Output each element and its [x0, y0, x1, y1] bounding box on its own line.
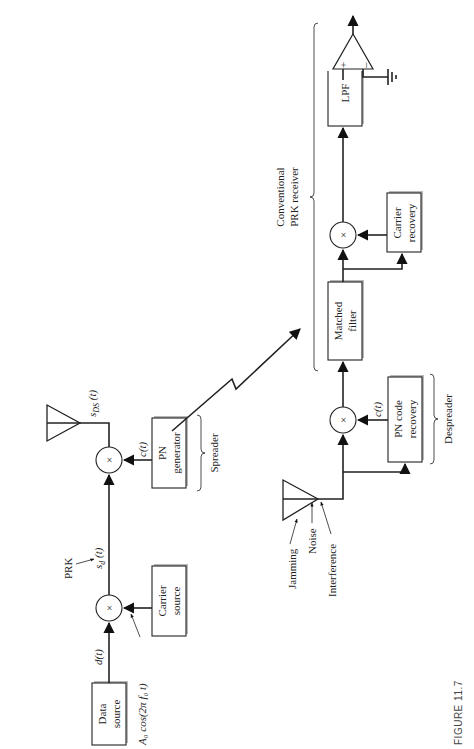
jamming-pointer	[290, 519, 297, 544]
rx-antenna-icon	[283, 480, 318, 520]
carrier-recovery-label-2: recovery	[405, 203, 417, 242]
carrier-signal-label: A₀ cos(2π f₀ t)	[136, 683, 149, 746]
demod-mixer: ×	[330, 222, 356, 248]
conventional-receiver-brace	[310, 23, 318, 371]
pn-generator-label-2: generator	[170, 432, 182, 474]
minus-input-label: –	[359, 62, 371, 69]
conventional-label-2: PRK receiver	[288, 167, 300, 227]
pn-code-recovery-block: PN code recovery	[388, 375, 424, 462]
carrier-signal-pointer	[131, 614, 140, 637]
interference-pointer	[321, 502, 331, 534]
plus-input-label: +	[337, 62, 349, 68]
despreader-brace	[430, 374, 438, 464]
spreader-brace	[197, 415, 205, 491]
wireless-link-icon	[172, 329, 300, 431]
carrier-recovery-feed	[343, 254, 402, 269]
ground-icon	[388, 69, 396, 85]
spread-spectrum-diagram: Data source d(t) × Carrier source A₀ cos…	[0, 0, 474, 749]
multiply-icon: ×	[337, 232, 349, 238]
pn-code-recovery-label-1: PN code	[392, 400, 404, 438]
multiply-icon: ×	[103, 457, 115, 463]
lpf-label: LPF	[339, 84, 351, 103]
pn-code-recovery-label-2: recovery	[406, 399, 418, 438]
pn-generator-label-1: PN	[156, 446, 168, 460]
comparator: + –	[326, 31, 382, 71]
rx-wire	[318, 435, 343, 499]
matched-filter-label-1: Matched	[332, 301, 344, 340]
carrier-recovery-label-1: Carrier	[391, 207, 403, 238]
carrier-recovery-block: Carrier recovery	[387, 191, 423, 252]
data-source-label-2: source	[110, 700, 122, 729]
spreader-label: Spreader	[208, 433, 220, 472]
spreading-mixer: ×	[96, 447, 122, 473]
matched-filter-label-2: filter	[346, 310, 358, 332]
conventional-label-1: Conventional	[274, 167, 286, 226]
pn-recovery-feed	[343, 464, 405, 472]
carrier-source-label-2: source	[170, 587, 182, 616]
data-source-block: Data source	[92, 681, 128, 745]
jamming-label: Jamming	[286, 548, 298, 589]
despreader-label: Despreader	[442, 394, 454, 444]
multiply-icon: ×	[337, 417, 349, 423]
noise-label: Noise	[306, 528, 318, 554]
carrier-source-label-1: Carrier	[156, 585, 168, 616]
tx-code-signal-label: c(t)	[136, 441, 149, 457]
rx-code-signal-label: c(t)	[371, 401, 384, 417]
prk-signal-label: sd (t)	[92, 547, 107, 569]
tx-antenna-feed	[80, 423, 109, 447]
tx-antenna-icon	[47, 405, 80, 441]
data-source-label-1: Data	[96, 704, 108, 725]
ds-signal-label: sDS (t)	[86, 389, 101, 417]
despreading-mixer: ×	[330, 407, 356, 433]
matched-filter-block: Matched filter	[328, 280, 364, 360]
multiply-icon: ×	[103, 605, 115, 611]
figure-caption: FIGURE 11.7	[453, 680, 464, 745]
prk-label: PRK	[62, 558, 74, 579]
bpsk-mixer: ×	[96, 595, 122, 621]
pn-generator-block: PN generator	[152, 416, 188, 488]
carrier-source-block: Carrier source	[152, 564, 188, 636]
data-signal-label: d(t)	[92, 649, 105, 665]
interference-label: Interference	[326, 544, 338, 597]
